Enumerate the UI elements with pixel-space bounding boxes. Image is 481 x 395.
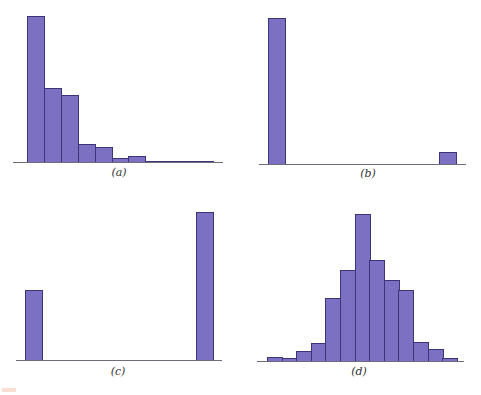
plot-area-d xyxy=(0,0,481,361)
caption-d: (d) xyxy=(339,365,379,378)
caption-c: (c) xyxy=(98,365,138,378)
cropped-margin-mark xyxy=(2,388,16,392)
histogram-bar xyxy=(369,260,385,361)
histogram-bar xyxy=(325,298,341,361)
histogram-bar xyxy=(340,270,356,361)
histogram-bar xyxy=(296,351,312,361)
histogram-bar xyxy=(413,342,429,361)
histogram-bar xyxy=(398,290,414,361)
x-axis-d xyxy=(257,361,464,362)
